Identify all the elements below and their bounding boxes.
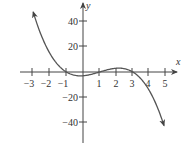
svg-text:40: 40 (68, 16, 78, 27)
svg-text:1: 1 (97, 78, 102, 89)
svg-text:5: 5 (163, 78, 168, 89)
svg-text:−3: −3 (24, 78, 35, 89)
y-axis-label: y (85, 0, 91, 11)
svg-text:2: 2 (114, 78, 119, 89)
x-tick-labels: −3 −2 −1 1 2 3 4 5 (24, 78, 168, 89)
svg-text:20: 20 (68, 41, 78, 52)
svg-text:−20: −20 (62, 92, 78, 103)
svg-text:3: 3 (130, 78, 135, 89)
svg-text:−1: −1 (58, 78, 69, 89)
svg-text:−40: −40 (62, 117, 78, 128)
cubic-function-graph: −3 −2 −1 1 2 3 4 5 40 20 −20 −40 x y (0, 0, 190, 153)
x-axis-label: x (175, 56, 181, 67)
svg-text:−2: −2 (41, 78, 52, 89)
